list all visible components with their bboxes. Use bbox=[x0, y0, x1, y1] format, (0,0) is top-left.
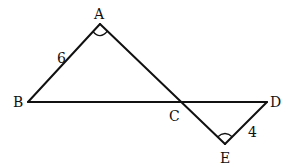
angle-mark-a bbox=[93, 31, 108, 36]
point-label-b: B bbox=[13, 94, 23, 110]
geometry-diagram: A B C D E 6 4 bbox=[0, 0, 295, 168]
segment-ae bbox=[100, 24, 225, 144]
point-label-c: C bbox=[169, 108, 180, 124]
point-label-d: D bbox=[270, 94, 281, 110]
length-label-de: 4 bbox=[248, 124, 257, 140]
segment-de bbox=[225, 102, 267, 144]
length-label-ab: 6 bbox=[57, 50, 66, 66]
point-label-e: E bbox=[220, 150, 230, 166]
point-label-a: A bbox=[93, 6, 105, 22]
angle-mark-e bbox=[218, 134, 233, 138]
